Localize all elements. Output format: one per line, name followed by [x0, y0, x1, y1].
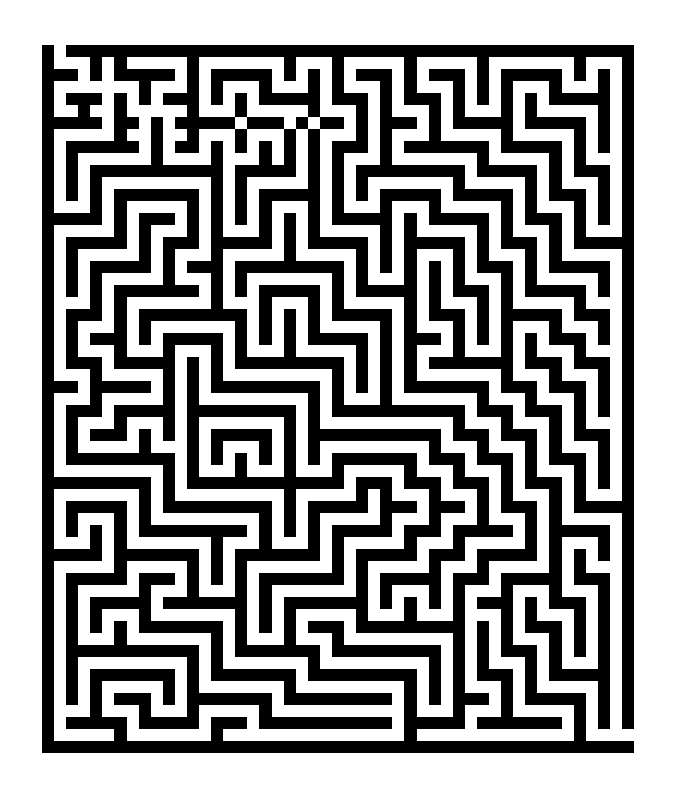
- maze-path-cell: [392, 93, 404, 105]
- maze-wall-cell: [284, 213, 296, 225]
- maze-wall-cell: [163, 405, 175, 417]
- maze-wall-cell: [308, 525, 320, 537]
- maze-path-cell: [441, 273, 453, 285]
- maze-wall-cell: [114, 537, 126, 549]
- maze-path-cell: [139, 681, 151, 693]
- maze-path-cell: [78, 249, 90, 261]
- maze-wall-cell: [259, 585, 271, 597]
- maze-path-cell: [272, 489, 284, 501]
- maze-wall-cell: [114, 129, 126, 141]
- maze-wall-cell: [66, 165, 78, 177]
- maze-path-cell: [127, 237, 139, 249]
- maze-wall-cell: [356, 585, 368, 597]
- maze-wall-cell: [453, 309, 465, 321]
- maze-wall-cell: [90, 573, 102, 585]
- maze-path-cell: [392, 633, 404, 645]
- maze-path-cell: [489, 285, 501, 297]
- maze-path-cell: [562, 417, 574, 429]
- maze-path-cell: [574, 657, 586, 669]
- maze-wall-cell: [332, 189, 344, 201]
- maze-path-cell: [139, 633, 151, 645]
- maze-wall-cell: [66, 69, 78, 81]
- maze-path-cell: [247, 573, 259, 585]
- maze-path-cell: [586, 213, 598, 225]
- maze-path-cell: [344, 249, 356, 261]
- maze-wall-cell: [380, 165, 392, 177]
- maze-path-cell: [54, 729, 66, 741]
- maze-path-cell: [54, 321, 66, 333]
- maze-wall-cell: [211, 717, 223, 729]
- maze-path-cell: [465, 417, 477, 429]
- maze-wall-cell: [320, 693, 332, 705]
- maze-wall-cell: [477, 441, 489, 453]
- maze-path-cell: [127, 465, 139, 477]
- maze-wall-cell: [66, 741, 78, 753]
- maze-path-cell: [247, 513, 259, 525]
- maze-wall-cell: [380, 597, 392, 609]
- maze-wall-cell: [114, 93, 126, 105]
- maze-path-cell: [320, 57, 332, 69]
- maze-wall-cell: [42, 333, 54, 345]
- maze-path-cell: [235, 441, 247, 453]
- maze-path-cell: [54, 537, 66, 549]
- maze-wall-cell: [356, 621, 368, 633]
- maze-path-cell: [102, 621, 114, 633]
- maze-path-cell: [610, 429, 622, 441]
- maze-wall-cell: [308, 285, 320, 297]
- maze-path-cell: [586, 297, 598, 309]
- maze-path-cell: [562, 633, 574, 645]
- maze-path-cell: [417, 153, 429, 165]
- maze-wall-cell: [453, 621, 465, 633]
- maze-wall-cell: [537, 693, 549, 705]
- maze-wall-cell: [223, 693, 235, 705]
- maze-path-cell: [151, 513, 163, 525]
- maze-path-cell: [102, 633, 114, 645]
- maze-path-cell: [489, 333, 501, 345]
- maze-path-cell: [344, 201, 356, 213]
- maze-wall-cell: [284, 249, 296, 261]
- maze-wall-cell: [513, 45, 525, 57]
- maze-path-cell: [175, 177, 187, 189]
- maze-path-cell: [199, 489, 211, 501]
- maze-path-cell: [78, 297, 90, 309]
- maze-path-cell: [465, 69, 477, 81]
- maze-wall-cell: [598, 81, 610, 93]
- maze-path-cell: [417, 369, 429, 381]
- maze-wall-cell: [622, 105, 634, 117]
- maze-wall-cell: [392, 189, 404, 201]
- maze-wall-cell: [404, 717, 416, 729]
- maze-path-cell: [102, 213, 114, 225]
- maze-wall-cell: [368, 69, 380, 81]
- maze-wall-cell: [429, 501, 441, 513]
- maze-path-cell: [441, 201, 453, 213]
- maze-wall-cell: [259, 597, 271, 609]
- maze-wall-cell: [223, 45, 235, 57]
- maze-wall-cell: [344, 45, 356, 57]
- maze-path-cell: [151, 477, 163, 489]
- maze-wall-cell: [429, 129, 441, 141]
- maze-path-cell: [477, 585, 489, 597]
- maze-wall-cell: [308, 141, 320, 153]
- maze-path-cell: [211, 129, 223, 141]
- maze-wall-cell: [501, 297, 513, 309]
- maze-path-cell: [332, 705, 344, 717]
- maze-path-cell: [513, 681, 525, 693]
- maze-wall-cell: [163, 309, 175, 321]
- maze-path-cell: [429, 177, 441, 189]
- maze-wall-cell: [562, 45, 574, 57]
- maze-wall-cell: [489, 453, 501, 465]
- maze-path-cell: [392, 297, 404, 309]
- maze-path-cell: [562, 309, 574, 321]
- maze-wall-cell: [66, 429, 78, 441]
- maze-wall-cell: [139, 597, 151, 609]
- maze-path-cell: [586, 225, 598, 237]
- maze-wall-cell: [139, 285, 151, 297]
- maze-wall-cell: [187, 561, 199, 573]
- maze-wall-cell: [284, 45, 296, 57]
- maze-wall-cell: [453, 477, 465, 489]
- maze-path-cell: [259, 489, 271, 501]
- maze-wall-cell: [259, 165, 271, 177]
- maze-wall-cell: [598, 465, 610, 477]
- maze-wall-cell: [429, 297, 441, 309]
- maze-wall-cell: [90, 741, 102, 753]
